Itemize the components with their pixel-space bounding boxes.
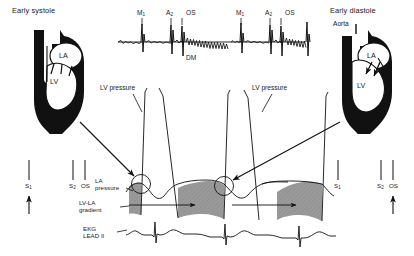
right-heart-lv-label: LV [357,82,365,90]
right-marker-os: OS [389,183,398,190]
left-marker-s2: S2 [69,183,76,190]
pressure-tracings [126,88,336,247]
right-heart-la-label: LA [367,52,376,60]
left-sound-marker-ticks [29,160,85,180]
ekg-lead-label: EKG LEAD II [83,226,104,240]
lv-pressure-leader-left [133,94,142,112]
left-heart-lv-label: LV [50,78,58,86]
lv-pressure-label-right: LV pressure [252,84,287,91]
right-sound-marker-ticks [338,160,393,180]
diastolic-murmur-label: DM [186,54,196,61]
right-heart-diagram [342,24,392,134]
left-heart-diagram [34,30,84,134]
phono-label-m1-b: M1 [236,9,244,16]
la-pressure-label: LA pressure [95,178,119,192]
figure-canvas: Early systole Early diastole LA LV LA LV… [0,0,414,256]
ekg-leader [117,230,127,232]
gradient-shade-1 [178,181,224,219]
right-marker-s2: S2 [377,183,384,190]
gradient-leader [120,206,129,207]
left-marker-s1: S1 [25,183,32,190]
right-marker-s1: S1 [334,183,341,190]
phono-label-a2-a: A2 [166,9,173,16]
aorta-label: Aorta [333,20,349,27]
cardiac-hemodynamics-figure [0,0,414,256]
left-marker-os: OS [81,183,90,190]
phonocardiogram-trace [118,18,310,56]
left-heart-la-label: LA [59,52,68,60]
right-panel-title: Early diastole [330,7,376,15]
gradient-shade-0 [129,183,141,215]
phono-label-m1-a: M1 [137,9,145,16]
phono-label-os-a: OS [186,9,196,16]
phono-label-a2-b: A2 [265,9,272,16]
lv-la-gradient-label: LV-LA gradient [79,200,101,214]
ekg-lead-ii-curve [126,222,336,247]
left-panel-title: Early systole [12,7,55,15]
lv-pressure-leader-right [262,94,272,112]
phono-label-os-b: OS [285,9,295,16]
gradient-shade-2 [277,182,322,221]
lv-pressure-label-left: LV pressure [100,84,135,91]
left-connector-arrow [80,122,134,176]
